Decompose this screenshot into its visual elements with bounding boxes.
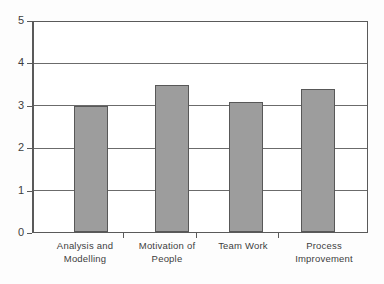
category-label-line-2: Improvement xyxy=(282,253,366,266)
y-tick-mark-0 xyxy=(27,233,32,234)
bar-team-work xyxy=(229,102,263,233)
x-tick-mark-1 xyxy=(123,233,124,238)
y-tick-label-0: 0 xyxy=(8,227,24,238)
y-tick-label-3: 3 xyxy=(8,100,24,111)
y-tick-label-2: 2 xyxy=(8,142,24,153)
x-tick-mark-3 xyxy=(278,233,279,238)
category-label-analysis-and-modelling: Analysis and Modelling xyxy=(46,240,124,265)
category-label-line-1: Analysis and xyxy=(46,240,124,253)
plot-area xyxy=(32,21,368,233)
category-label-line-2: Modelling xyxy=(46,253,124,266)
y-tick-label-1: 1 xyxy=(8,185,24,196)
gridline-4 xyxy=(34,63,367,64)
category-label-process-improvement: Process Improvement xyxy=(282,240,366,265)
category-label-line-2: People xyxy=(128,253,206,266)
y-tick-label-4: 4 xyxy=(8,57,24,68)
category-label-motivation-of-people: Motivation of People xyxy=(128,240,206,265)
category-label-line-1: Process xyxy=(282,240,366,253)
y-tick-label-5: 5 xyxy=(8,15,24,26)
x-tick-mark-2 xyxy=(196,233,197,238)
category-label-line-1: Team Work xyxy=(208,240,278,253)
category-label-line-1: Motivation of xyxy=(128,240,206,253)
bar-analysis-and-modelling xyxy=(74,106,108,232)
bar-process-improvement xyxy=(301,89,335,232)
bar-motivation-of-people xyxy=(155,85,189,232)
bar-chart: 5 4 3 2 1 0 Analysis and Modelling Motiv… xyxy=(0,0,384,284)
category-label-team-work: Team Work xyxy=(208,240,278,253)
